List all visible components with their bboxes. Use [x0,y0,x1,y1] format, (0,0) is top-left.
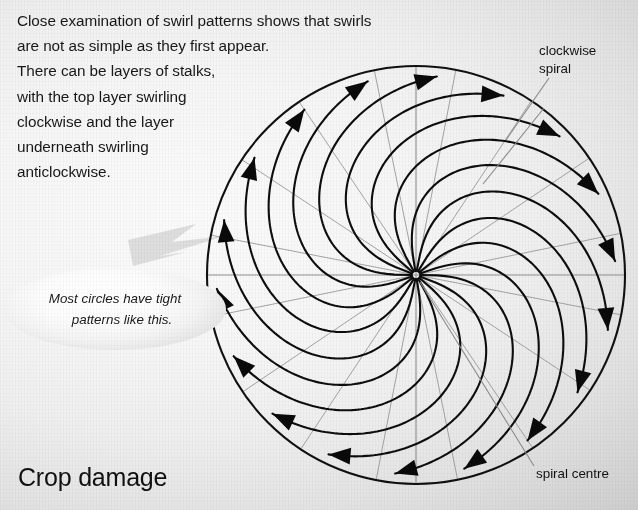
radial-stalk-line [212,235,410,273]
intro-line-3: There can be layers of stalks, [17,58,347,83]
spiral-arm [346,94,504,274]
label-spiral-centre: spiral centre [536,465,609,483]
spiral-arrowhead [329,448,352,465]
label-clockwise-spiral: clockwise spiral [539,42,596,77]
label-clockwise-spiral-line-1: clockwise [539,42,596,60]
annotation-leaders [420,78,549,466]
radial-stalk-line [422,276,620,314]
intro-line-6: underneath swirling [17,134,347,159]
intro-line-2: are not as simple as they first appear. [17,33,347,58]
spiral-arm [224,220,415,359]
radial-stalk-line [420,280,533,447]
spiral-arrowhead [536,120,560,137]
radial-stalk-line [417,71,455,269]
spiral-arrowhead [395,460,418,476]
spiral-arm [417,192,608,331]
slide-canvas: Close examination of swirl patterns show… [0,0,638,510]
spiral-arrowhead [575,369,591,392]
spiral-arrowhead [218,220,235,243]
intro-line-5: clockwise and the layer [17,109,347,134]
label-clockwise-spiral-line-2: spiral [539,60,596,78]
intro-paragraph: Close examination of swirl patterns show… [17,8,347,184]
spiral-arm [395,140,599,272]
spiral-arrowhead [598,238,615,261]
lightning-pointer [128,224,225,266]
spiral-arrowhead [528,418,547,441]
radial-stalk-line [421,278,589,389]
spiral-arm [419,243,563,441]
callout-text: Most circles have tight patterns like th… [4,268,226,350]
intro-line-7: anticlockwise. [17,159,347,184]
label-spiral-centre-line-1: spiral centre [536,465,609,483]
callout-bubble: Most circles have tight patterns like th… [4,268,226,350]
page-title: Crop damage [18,462,167,492]
callout-line-1: Most circles have tight [49,288,181,309]
spiral-arrowhead [481,85,504,102]
spiral-arrowhead [464,449,487,469]
spiral-arm [329,276,487,456]
spiral-centre-leader [420,282,534,466]
spiral-arrowhead [413,74,436,90]
intro-line-4: with the top layer swirling [17,84,347,109]
intro-line-1: Close examination of swirl patterns show… [17,8,347,33]
spiral-arrowhead [598,307,615,330]
radial-stalk-line [376,281,414,479]
spiral-arrowhead [272,414,296,431]
callout-line-2: patterns like this. [58,309,172,330]
spiral-arm [234,279,438,411]
spiral-arrowhead [345,81,368,101]
